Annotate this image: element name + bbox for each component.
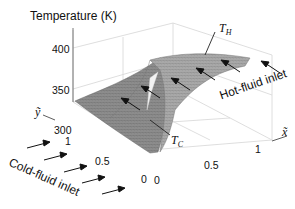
surface-plot-figure: Temperature (K) 400 350 300 1 0.5 0 0 0.… [0,0,295,209]
y-tick-0: 0 [141,174,147,185]
z-tick-300: 300 [54,125,72,136]
z-axis-title: Temperature (K) [30,10,117,22]
y-tick-1: 1 [65,136,71,147]
z-tick-400: 400 [52,44,70,55]
z-tick-350: 350 [52,85,70,96]
y-tick-0.5: 0.5 [95,156,110,167]
x-tick-1: 1 [255,144,261,155]
th-leader [205,32,215,55]
y-axis-label: ỹ [35,106,40,118]
y-axis-pointer [43,115,55,120]
x-tick-0.5: 0.5 [204,160,219,171]
x-axis-label: x̃ [282,126,287,138]
x-tick-0: 0 [154,175,160,186]
surface-tc [75,58,175,153]
tc-label: TC [171,134,183,149]
th-label: TH [219,22,231,37]
